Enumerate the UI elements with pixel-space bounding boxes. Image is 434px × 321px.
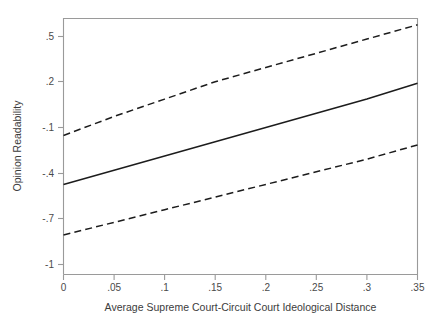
x-tick-label: .25 — [309, 282, 323, 293]
y-tick-label: -1 — [45, 259, 54, 270]
y-tick-label: -.1 — [42, 122, 54, 133]
x-tick-label: 0 — [61, 282, 67, 293]
y-tick-label: .5 — [46, 31, 55, 42]
x-tick-label: .05 — [107, 282, 121, 293]
x-tick-label: .15 — [208, 282, 222, 293]
x-tick-label: .35 — [411, 282, 425, 293]
y-tick-label: -.7 — [42, 213, 54, 224]
x-axis-title: Average Supreme Court-Circuit Court Ideo… — [105, 301, 377, 313]
chart-figure: .5 .2 -.1 -.4 -.7 -1 0 .05 .1 .15 .2 .25 — [0, 0, 434, 321]
marginal-effects-plot: .5 .2 -.1 -.4 -.7 -1 0 .05 .1 .15 .2 .25 — [0, 0, 434, 321]
y-tick-label: -.4 — [42, 168, 54, 179]
y-tick-label: .2 — [46, 76, 55, 87]
x-tick-label: .3 — [363, 282, 372, 293]
y-axis-title: Opinion Readability — [11, 100, 23, 192]
chart-background — [0, 0, 434, 321]
x-tick-label: .2 — [262, 282, 271, 293]
x-tick-label: .1 — [160, 282, 169, 293]
